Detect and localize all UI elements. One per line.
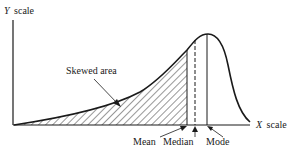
y-axis-var: Y: [4, 5, 11, 16]
mean-arrowhead: [180, 126, 187, 131]
x-axis-word: scale: [267, 119, 288, 130]
skewed-area-hatch: [14, 50, 187, 125]
y-axis-word: scale: [14, 5, 35, 16]
mode-arrowhead: [207, 126, 213, 131]
mean-label: Mean: [133, 136, 156, 147]
skewed-area-label: Skewed area: [66, 65, 117, 76]
median-label: Median: [163, 136, 194, 147]
x-axis-var: X: [255, 119, 263, 130]
y-axis-label: Y scale: [4, 5, 35, 16]
median-arrowhead: [192, 126, 198, 132]
mode-label: Mode: [206, 136, 230, 147]
skewed-distribution-diagram: Y scale X scale Skewed area Mean Median …: [0, 0, 291, 154]
x-axis-label: X scale: [255, 119, 287, 130]
skewed-area-pointer: [94, 79, 118, 104]
